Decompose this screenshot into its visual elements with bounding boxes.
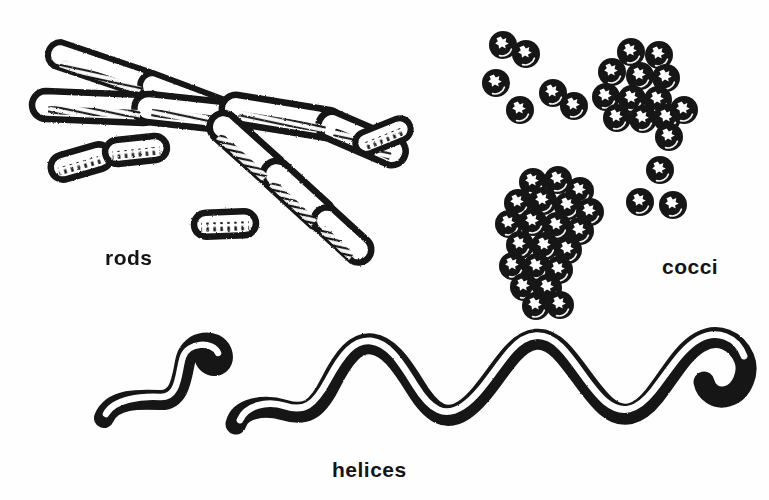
single-coccus bbox=[659, 191, 687, 219]
label-rods: rods bbox=[105, 246, 153, 270]
bacterial-morphology-figure: rods cocci helices bbox=[0, 0, 769, 500]
single-coccus bbox=[646, 156, 674, 184]
label-cocci: cocci bbox=[662, 255, 718, 279]
single-coccus bbox=[655, 123, 683, 151]
free-rod bbox=[194, 211, 257, 237]
label-helices: helices bbox=[332, 458, 407, 482]
single-coccus bbox=[670, 96, 698, 124]
free-rod bbox=[104, 135, 168, 165]
single-coccus bbox=[506, 96, 534, 124]
single-coccus bbox=[626, 188, 654, 216]
single-coccus bbox=[482, 69, 510, 97]
